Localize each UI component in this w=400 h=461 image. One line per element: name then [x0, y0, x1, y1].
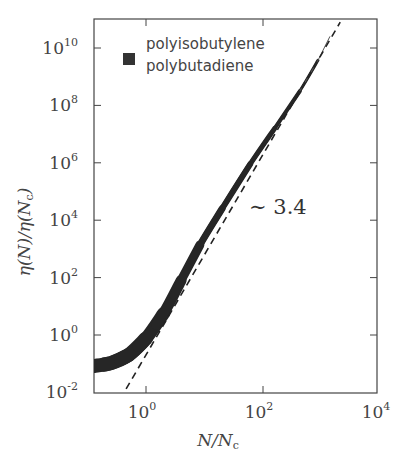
- x-tick-label: 104: [362, 400, 391, 422]
- y-tick-label: 10-2: [46, 380, 78, 402]
- power-law-fit-line: [126, 22, 340, 389]
- y-tick-label: 1010: [42, 36, 78, 58]
- axis-ticks: [94, 19, 377, 393]
- plot-frame: [94, 19, 377, 393]
- legend-item-polyisobutylene: polyisobutylene: [146, 35, 265, 53]
- legend-marker: [123, 53, 135, 65]
- viscosity-chart: 10010210410-21001021041061081010 polyiso…: [0, 0, 400, 461]
- x-tick-label: 100: [128, 400, 157, 422]
- y-tick-label: 108: [49, 93, 78, 115]
- y-tick-label: 102: [49, 266, 78, 288]
- slope-annotation: ∼ 3.4: [249, 195, 307, 219]
- x-axis-label: N/Nc: [196, 430, 239, 452]
- y-axis-label: η(N)/η(Nc): [14, 188, 36, 277]
- y-tick-label: 100: [49, 323, 78, 345]
- legend-item-polybutadiene: polybutadiene: [146, 57, 254, 75]
- y-tick-label: 106: [49, 151, 78, 173]
- y-tick-label: 104: [49, 208, 78, 230]
- x-tick-label: 102: [245, 400, 274, 422]
